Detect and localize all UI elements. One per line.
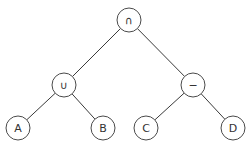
tree-node-B: B (91, 116, 115, 140)
node-label: A (14, 122, 22, 135)
edge-root-union (72, 28, 120, 76)
edge-minus-D (201, 94, 225, 119)
tree-node-root: ∩ (117, 8, 141, 32)
tree-node-A: A (6, 116, 30, 140)
node-label: C (142, 122, 150, 135)
edge-union-B (72, 94, 95, 119)
tree-nodes: ∩∪−ABCD (6, 8, 245, 140)
tree-node-union: ∪ (52, 73, 76, 97)
edge-minus-C (155, 93, 184, 120)
node-label: B (99, 122, 107, 135)
edge-union-A (27, 93, 55, 120)
node-label: D (229, 122, 237, 135)
tree-node-C: C (134, 116, 158, 140)
node-label: ∩ (125, 14, 133, 27)
node-label: ∪ (60, 79, 68, 92)
edge-root-minus (137, 29, 184, 77)
node-label: − (188, 79, 197, 92)
tree-node-minus: − (181, 73, 205, 97)
expression-tree-diagram: ∩∪−ABCD (0, 0, 252, 148)
tree-node-D: D (221, 116, 245, 140)
